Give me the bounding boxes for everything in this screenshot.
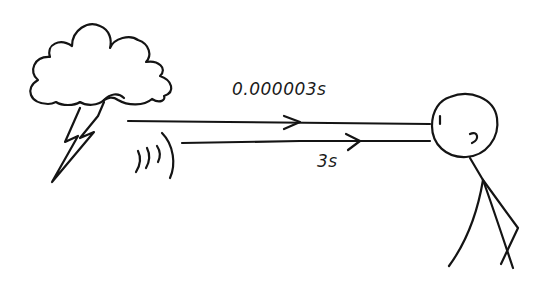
light-arrow xyxy=(128,116,430,129)
diagram-canvas: 0.000003s 3s xyxy=(0,0,549,286)
lightning-bolt-icon xyxy=(52,102,104,182)
light-travel-time-label: 0.000003s xyxy=(232,79,326,99)
sound-travel-time-label: 3s xyxy=(317,151,338,171)
diagram-drawing xyxy=(0,0,549,286)
sound-waves-icon xyxy=(136,133,173,178)
sound-arrow xyxy=(182,134,430,150)
stick-figure-icon xyxy=(432,94,518,268)
cloud-icon xyxy=(30,24,171,105)
